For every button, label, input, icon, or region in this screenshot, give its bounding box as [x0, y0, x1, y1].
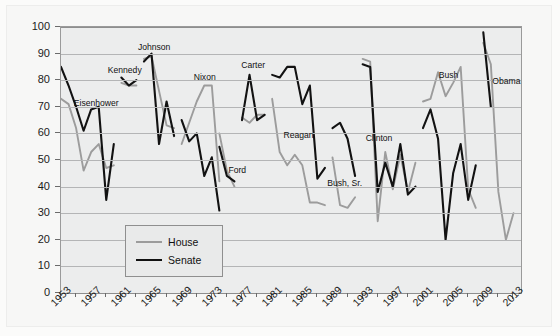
x-tick-2007 — [467, 293, 468, 297]
y-tick-label-80: 80 — [38, 73, 50, 85]
gridline-y-100 — [61, 27, 521, 28]
x-tick-2011 — [497, 293, 498, 297]
x-tick-2003 — [437, 293, 438, 297]
x-tick-1963 — [135, 293, 136, 297]
chart-legend: House Senate — [125, 225, 223, 277]
annotation-kennedy: Kennedy — [108, 66, 142, 75]
line-senate-bush-sr — [332, 123, 355, 176]
x-tick-1959 — [105, 293, 106, 297]
gridline-y-30 — [61, 213, 521, 214]
y-tick-label-10: 10 — [38, 259, 50, 271]
annotation-clinton: Clinton — [366, 134, 393, 143]
line-senate-johnson — [144, 54, 174, 144]
y-tick-label-40: 40 — [38, 180, 50, 192]
line-senate-ford — [219, 147, 234, 182]
x-tick-1999 — [407, 293, 408, 297]
gridline-y-70 — [61, 107, 521, 108]
x-tick-1975 — [226, 293, 227, 297]
plot-area: EisenhowerKennedyJohnsonNixonFordCarterR… — [60, 26, 522, 294]
annotation-reagan: Reagan — [283, 131, 313, 140]
annotation-ford: Ford — [228, 166, 246, 175]
x-tick-1987 — [316, 293, 317, 297]
y-tick-label-60: 60 — [38, 126, 50, 138]
chart-figure: Percentage 0102030405060708090100 Eisenh… — [0, 0, 560, 336]
legend-swatch-house — [136, 241, 162, 243]
y-tick-label-70: 70 — [38, 100, 50, 112]
gridline-y-90 — [61, 54, 521, 55]
legend-item-house: House — [136, 236, 198, 248]
x-tick-1971 — [196, 293, 197, 297]
gridline-y-80 — [61, 80, 521, 81]
y-tick-label-30: 30 — [38, 206, 50, 218]
annotation-bush: Bush — [439, 71, 459, 80]
y-tick-label-100: 100 — [32, 20, 50, 32]
legend-swatch-senate — [136, 259, 162, 261]
y-tick-label-0: 0 — [44, 286, 50, 298]
y-axis: 0102030405060708090100 — [0, 0, 60, 336]
y-tick-label-20: 20 — [38, 233, 50, 245]
x-tick-1991 — [347, 293, 348, 297]
legend-item-senate: Senate — [136, 254, 201, 266]
annotation-eisenhower: Eisenhower — [74, 99, 119, 108]
x-tick-1967 — [166, 293, 167, 297]
y-tick-label-50: 50 — [38, 153, 50, 165]
annotation-carter: Carter — [241, 61, 265, 70]
annotation-bush-sr: Bush, Sr. — [327, 179, 362, 188]
annotation-obama: Obama — [492, 77, 520, 86]
line-house-reagan — [272, 99, 325, 205]
x-tick-1979 — [256, 293, 257, 297]
gridline-y-50 — [61, 160, 521, 161]
line-senate-carter — [242, 75, 265, 120]
x-tick-1995 — [377, 293, 378, 297]
line-senate-clinton — [363, 64, 416, 194]
x-tick-1983 — [286, 293, 287, 297]
legend-label-house: House — [168, 236, 198, 248]
gridline-y-40 — [61, 187, 521, 188]
annotation-johnson: Johnson — [138, 43, 171, 52]
line-senate-reagan — [272, 67, 325, 179]
y-tick-label-90: 90 — [38, 47, 50, 59]
annotation-nixon: Nixon — [194, 73, 216, 82]
x-tick-1955 — [75, 293, 76, 297]
legend-label-senate: Senate — [168, 254, 201, 266]
line-senate-obama — [483, 32, 491, 106]
